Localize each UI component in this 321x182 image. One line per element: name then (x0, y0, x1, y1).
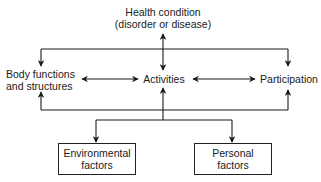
personal-line2: factors (217, 159, 249, 171)
node-environmental-factors: Environmental factors (58, 143, 136, 175)
environmental-line1: Environmental (63, 147, 130, 159)
activities-label: Activities (141, 73, 187, 85)
node-health-condition: Health condition (disorder or disease) (113, 6, 213, 30)
node-body-functions: Body functions and structures (6, 68, 78, 92)
node-personal-factors: Personal factors (194, 143, 272, 175)
health-condition-line1: Health condition (113, 6, 213, 18)
node-activities: Activities (141, 73, 187, 85)
node-participation: Participation (260, 73, 318, 85)
health-condition-line2: (disorder or disease) (113, 18, 213, 30)
personal-line1: Personal (212, 147, 253, 159)
body-functions-line1: Body functions (6, 68, 78, 80)
body-functions-line2: and structures (6, 80, 78, 92)
participation-label: Participation (260, 73, 318, 85)
environmental-line2: factors (81, 159, 113, 171)
